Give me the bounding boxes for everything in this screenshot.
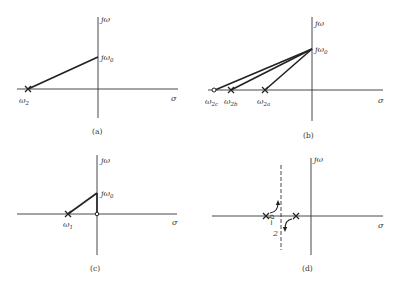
arrow-up-head-icon — [276, 200, 280, 205]
pole-b-label: ω2b — [224, 97, 238, 107]
pole-label: ω2 — [19, 96, 30, 106]
zero-marker-icon — [212, 88, 216, 92]
real-axis-label: σ — [172, 218, 178, 227]
panel-caption: (a) — [92, 127, 102, 136]
imag-axis-label: jω — [99, 15, 110, 24]
asymptote-numerator-label: −b — [267, 214, 276, 226]
panel-caption: (c) — [90, 264, 100, 273]
pole-a-label: ω2a — [257, 97, 270, 107]
panel-caption: (b) — [303, 131, 314, 140]
panel-b: jω jω0 ω2c ω2b ω2a σ (b) — [205, 17, 384, 140]
zero-marker-icon — [95, 212, 99, 216]
pole-label: ω1 — [63, 220, 73, 230]
imag-axis-label: jω — [313, 19, 324, 28]
jw0-label: jω0 — [99, 189, 114, 199]
imag-axis-label: jω — [99, 156, 110, 165]
root-locus-figure: jω jω0 ω2 σ (a) jω jω0 ω2c ω2b ω2a σ (b) — [0, 0, 397, 287]
locus-line — [28, 57, 98, 89]
jw0-label: jω0 — [99, 53, 114, 63]
panel-c: jω jω0 ω1 σ (c) — [17, 155, 178, 273]
locus-line-c — [215, 49, 312, 90]
asymptote-denominator-label: 2 — [272, 229, 278, 238]
real-axis-label: σ — [378, 221, 384, 230]
panel-caption: (d) — [302, 264, 313, 273]
zero-c-label: ω2c — [205, 97, 218, 107]
real-axis-label: σ — [378, 96, 384, 105]
panel-a: jω jω0 ω2 σ (a) — [17, 15, 178, 136]
imag-axis-label: jω — [312, 155, 323, 164]
panel-d: −b 2 jω σ (d) — [212, 155, 384, 273]
real-axis-label: σ — [171, 94, 177, 103]
locus-line — [68, 193, 97, 214]
jw0-label: jω0 — [313, 45, 328, 55]
arrow-down-head-icon — [283, 227, 287, 232]
